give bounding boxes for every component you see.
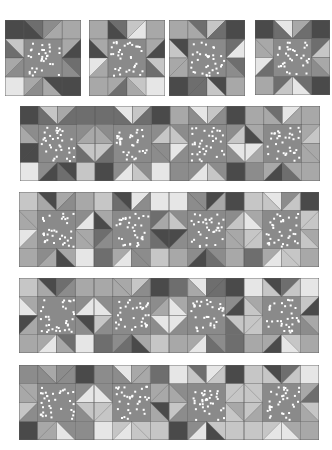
quilt-block-single — [255, 20, 330, 95]
quilt-block — [19, 192, 94, 267]
quilt-block-single — [169, 20, 245, 96]
quilt-block — [94, 278, 169, 353]
quilt-block — [169, 365, 244, 440]
quilt-block — [94, 365, 169, 440]
quilt-block — [19, 278, 94, 353]
quilt-block — [95, 106, 170, 181]
quilt-block — [244, 365, 319, 440]
quilt-block — [169, 192, 244, 267]
quilt-block — [94, 192, 169, 267]
quilt-block — [170, 106, 245, 181]
quilt-block — [19, 365, 94, 440]
quilt-block — [245, 106, 320, 181]
quilt-block — [20, 106, 95, 181]
quilt-block-single — [89, 20, 165, 96]
quilt-block — [169, 278, 244, 353]
quilt-block — [244, 278, 319, 353]
quilt-block — [244, 192, 319, 267]
quilt-block-single — [5, 20, 81, 96]
